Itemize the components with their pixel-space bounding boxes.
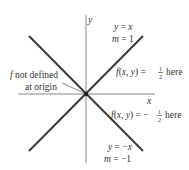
upper-region-label: f(x, y) = 1 2 here xyxy=(116,66,182,80)
svg-text:here: here xyxy=(166,67,182,77)
line2-slope: m = −1 xyxy=(104,154,131,164)
svg-text:here: here xyxy=(165,110,181,120)
y-axis-label: y xyxy=(87,14,93,25)
x-axis-label: x xyxy=(146,95,152,106)
line1-slope: m = 1 xyxy=(112,34,134,44)
svg-text:2: 2 xyxy=(159,74,162,80)
origin-point xyxy=(84,92,88,96)
origin-note-line1: f not defined xyxy=(10,70,58,80)
svg-text:1: 1 xyxy=(159,66,162,72)
lower-region-label: f(x, y) = − 1 2 here xyxy=(111,109,181,123)
origin-note-line2: at origin xyxy=(25,82,57,92)
diagram-canvas: y x y = x m = 1 y = −x m = −1 f not defi… xyxy=(0,0,189,170)
svg-text:1: 1 xyxy=(158,109,161,115)
svg-text:f(x, y) = −: f(x, y) = − xyxy=(111,110,149,121)
svg-text:f(x, y) =: f(x, y) = xyxy=(116,67,146,78)
svg-text:2: 2 xyxy=(158,117,161,123)
line1-equation: y = x xyxy=(113,22,133,32)
line2-equation: y = −x xyxy=(107,142,133,152)
